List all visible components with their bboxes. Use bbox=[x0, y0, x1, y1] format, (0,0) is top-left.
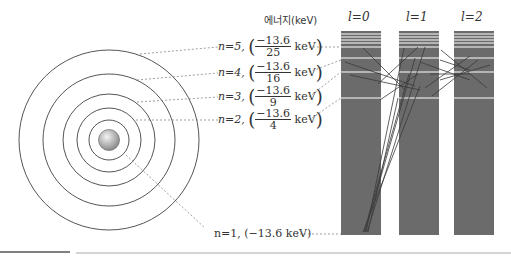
level-label-n3: n=3, (−13.69 keV) bbox=[218, 85, 323, 108]
column-label-l2: l=2 bbox=[461, 10, 483, 24]
level-label-n1: n=1, (−13.6 keV) bbox=[214, 227, 311, 240]
energy-axis-title: 에너지(keV) bbox=[264, 12, 317, 27]
column-label-l0: l=0 bbox=[348, 10, 370, 24]
energy-columns bbox=[341, 31, 494, 235]
nucleus bbox=[99, 130, 120, 151]
column-label-l1: l=1 bbox=[406, 10, 428, 24]
level-label-n4: n=4, (−13.616 keV) bbox=[218, 61, 323, 84]
level-label-n2: n=2, (−13.64 keV) bbox=[218, 108, 323, 131]
level-label-n5: n=5, (−13.625 keV) bbox=[218, 35, 323, 58]
